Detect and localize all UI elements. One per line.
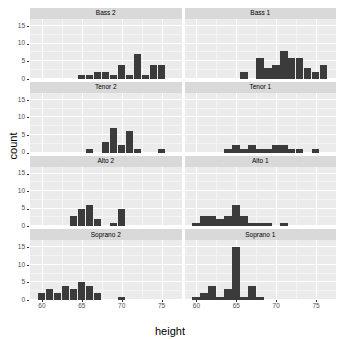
histogram-bar (248, 223, 255, 227)
gridline-major-horizontal (185, 281, 337, 282)
facet-panel: Bass 2 (30, 8, 182, 79)
histogram-bar (78, 209, 85, 227)
histogram-bar (224, 149, 231, 153)
facet-strip-label: Bass 2 (96, 10, 116, 17)
gridline-minor-vertical (102, 19, 103, 79)
facet-strip: Alto 2 (30, 156, 182, 167)
histogram-bar (240, 297, 247, 301)
facet-strip-label: Bass 1 (250, 10, 270, 17)
histogram-bar (264, 149, 271, 153)
histogram-bar (256, 58, 263, 79)
gridline-major-vertical (122, 93, 123, 153)
y-tick-mark (27, 153, 29, 154)
faceted-histogram-chart: count Bass 2Bass 1Tenor 2Tenor 1Alto 2Al… (0, 0, 340, 339)
gridline-major-vertical (42, 167, 43, 227)
histogram-bar (208, 286, 215, 300)
histogram-bar (54, 293, 61, 300)
histogram-bar (46, 289, 53, 300)
facet-strip-label: Soprano 2 (91, 232, 121, 239)
gridline-minor-vertical (62, 19, 63, 79)
gridline-minor-horizontal (185, 108, 337, 109)
plot-panel (185, 19, 337, 79)
gridline-minor-vertical (256, 240, 257, 300)
histogram-bar (94, 293, 101, 300)
histogram-bar (288, 58, 295, 79)
histogram-bar (320, 65, 327, 79)
facet-panel: Soprano 2 (30, 229, 182, 300)
y-tick-label: 15 (11, 23, 25, 30)
facet-strip-label: Tenor 1 (249, 84, 271, 91)
gridline-minor-vertical (216, 240, 217, 300)
histogram-bar (224, 289, 231, 300)
gridline-minor-horizontal (30, 199, 182, 200)
gridline-minor-vertical (296, 167, 297, 227)
plot-panel (30, 240, 182, 300)
x-tick-label: 60 (187, 303, 205, 310)
gridline-major-horizontal (30, 173, 182, 174)
gridline-major-horizontal (185, 134, 337, 135)
histogram-bar (264, 68, 271, 79)
y-tick-mark (27, 100, 29, 101)
histogram-bar (62, 286, 69, 300)
y-tick-mark (27, 191, 29, 192)
histogram-bar (134, 54, 141, 79)
histogram-bar (78, 75, 85, 79)
histogram-bar (118, 65, 125, 79)
histogram-bar (256, 149, 263, 153)
gridline-major-horizontal (185, 190, 337, 191)
histogram-bar (240, 72, 247, 79)
facet-panel: Alto 2 (30, 156, 182, 227)
gridline-minor-horizontal (185, 51, 337, 52)
facet-strip-label: Soprano 1 (245, 232, 275, 239)
y-tick-mark (27, 247, 29, 248)
y-tick-mark (27, 226, 29, 227)
y-tick-label: 15 (11, 244, 25, 251)
histogram-bar (312, 149, 319, 153)
gridline-minor-horizontal (185, 143, 337, 144)
gridline-major-vertical (316, 240, 317, 300)
histogram-bar (272, 145, 279, 152)
facet-strip: Tenor 1 (185, 82, 337, 93)
gridline-minor-vertical (256, 93, 257, 153)
gridline-minor-horizontal (185, 290, 337, 291)
histogram-bar (264, 223, 271, 227)
y-tick-mark (27, 300, 29, 301)
x-tick-label: 75 (307, 303, 325, 310)
facet-panel: Soprano 1 (185, 229, 337, 300)
gridline-minor-vertical (296, 93, 297, 153)
histogram-bar (280, 51, 287, 79)
histogram-bar (126, 75, 133, 79)
y-tick-mark (27, 79, 29, 80)
gridline-major-vertical (316, 19, 317, 79)
histogram-bar (134, 149, 141, 153)
facet-strip: Alto 1 (185, 156, 337, 167)
histogram-bar (248, 145, 255, 152)
gridline-major-horizontal (185, 264, 337, 265)
histogram-bar (312, 72, 319, 79)
histogram-bar (280, 145, 287, 152)
histogram-bar (256, 297, 263, 301)
y-tick-mark (27, 44, 29, 45)
histogram-bar (304, 68, 311, 79)
y-tick-label: 15 (11, 97, 25, 104)
x-axis-title: height (0, 325, 340, 337)
plot-panel (30, 19, 182, 79)
gridline-major-horizontal (30, 134, 182, 135)
gridline-minor-horizontal (30, 273, 182, 274)
gridline-minor-vertical (216, 19, 217, 79)
y-tick-label: 10 (11, 262, 25, 269)
gridline-major-vertical (316, 167, 317, 227)
y-tick-label: 10 (11, 114, 25, 121)
gridline-major-horizontal (185, 173, 337, 174)
x-tick-label: 65 (73, 303, 91, 310)
gridline-minor-vertical (216, 167, 217, 227)
gridline-minor-horizontal (30, 34, 182, 35)
histogram-bar (38, 293, 45, 300)
gridline-major-vertical (236, 19, 237, 79)
y-tick-mark (27, 282, 29, 283)
y-tick-label: 5 (11, 58, 25, 65)
gridline-major-vertical (276, 167, 277, 227)
facet-strip: Bass 1 (185, 8, 337, 19)
gridline-minor-vertical (256, 167, 257, 227)
gridline-minor-vertical (102, 167, 103, 227)
